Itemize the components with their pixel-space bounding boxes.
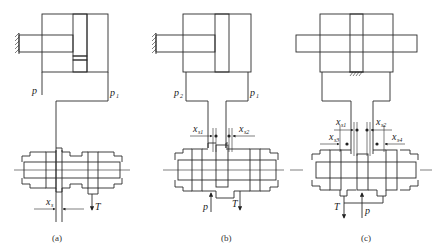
label-T: T <box>232 198 239 209</box>
wall-hatch-icon <box>152 33 156 54</box>
label-p: p <box>364 205 370 216</box>
svg-text:1: 1 <box>116 93 119 99</box>
label-p: p <box>202 201 208 212</box>
cylinder-a <box>15 14 108 72</box>
spool-valve-diagram: p p 1 T x s (a) <box>0 0 439 252</box>
label-p1: p <box>109 87 115 98</box>
label-T: T <box>95 201 102 212</box>
label-p: p <box>31 85 37 96</box>
label-p2: p <box>173 87 179 98</box>
cylinder-c <box>296 14 417 76</box>
spool-valve-b <box>163 143 284 198</box>
panel-b: p 2 p 1 x s1 x s2 <box>152 14 284 243</box>
svg-text:s2: s2 <box>244 129 249 135</box>
svg-text:s3: s3 <box>334 137 339 143</box>
svg-text:s: s <box>51 202 54 208</box>
label-p1: p <box>249 87 255 98</box>
panel-a: p p 1 T x s (a) <box>14 14 130 243</box>
panel-c: x s1 x s2 x s3 x s4 T p (c) <box>290 14 432 243</box>
ground-hatch-icon <box>349 72 364 76</box>
caption-a: (a) <box>52 233 62 243</box>
cylinder-b <box>152 14 251 72</box>
wall-hatch-icon <box>15 33 19 54</box>
svg-text:s4: s4 <box>397 137 402 143</box>
spool-valve-c <box>290 150 432 196</box>
svg-text:1: 1 <box>256 93 259 99</box>
svg-text:s1: s1 <box>198 129 203 135</box>
svg-text:s1: s1 <box>341 122 346 128</box>
svg-text:s2: s2 <box>381 122 386 128</box>
spool-valve-a <box>14 148 130 194</box>
caption-b: (b) <box>221 233 232 243</box>
label-T: T <box>334 201 341 212</box>
caption-c: (c) <box>361 233 371 243</box>
svg-text:2: 2 <box>180 93 183 99</box>
